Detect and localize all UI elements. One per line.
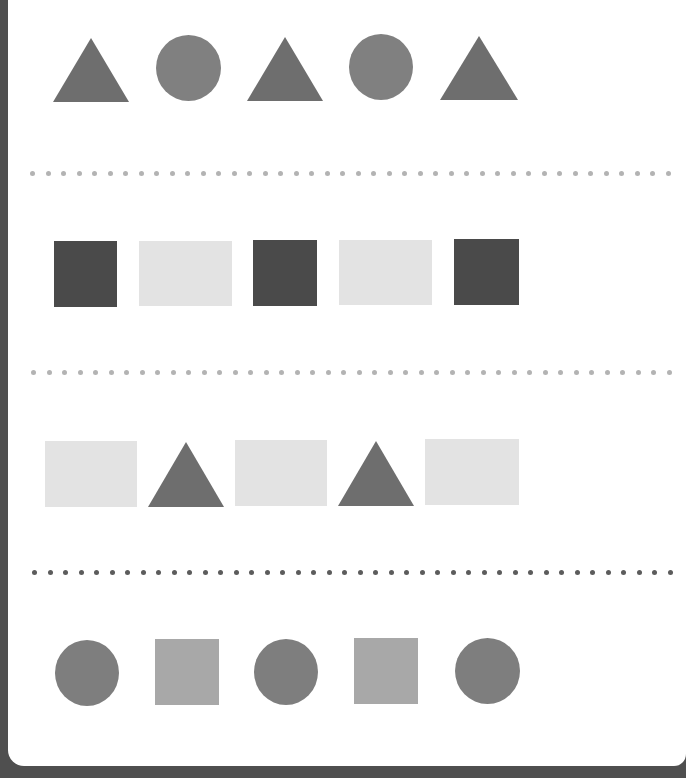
divider-dot — [185, 171, 190, 176]
divider-dot — [78, 370, 83, 375]
divider-dot — [61, 171, 66, 176]
divider-dot — [77, 171, 82, 176]
divider-dot — [573, 171, 578, 176]
divider-dot — [589, 370, 594, 375]
divider-dot — [403, 370, 408, 375]
divider-dot — [47, 370, 52, 375]
divider-dot — [668, 570, 673, 575]
circle-shape — [156, 35, 221, 101]
circle-shape — [254, 639, 318, 705]
divider-dot — [124, 370, 129, 375]
divider-dot — [218, 570, 223, 575]
divider-dot — [372, 370, 377, 375]
divider-dot — [48, 570, 53, 575]
divider-dot — [666, 171, 671, 176]
divider-dot — [154, 171, 159, 176]
divider-dot — [187, 570, 192, 575]
divider-dot — [451, 570, 456, 575]
divider-dot — [404, 570, 409, 575]
square-shape — [155, 639, 219, 705]
divider-dot — [30, 171, 35, 176]
divider-dot — [388, 370, 393, 375]
divider-dot — [234, 570, 239, 575]
divider-dot — [170, 171, 175, 176]
divider-dot — [279, 370, 284, 375]
dotted-divider-1 — [8, 171, 686, 177]
rectangle-shape — [425, 439, 519, 505]
worksheet-card — [8, 0, 686, 766]
divider-dot — [433, 171, 438, 176]
divider-dot — [358, 570, 363, 575]
divider-dot — [667, 370, 672, 375]
divider-dot — [418, 171, 423, 176]
divider-dot — [544, 570, 549, 575]
divider-dot — [513, 570, 518, 575]
divider-dot — [79, 570, 84, 575]
divider-dot — [464, 171, 469, 176]
divider-dot — [420, 570, 425, 575]
square-shape — [454, 239, 519, 305]
divider-dot — [247, 171, 252, 176]
divider-dot — [310, 370, 315, 375]
divider-dot — [92, 171, 97, 176]
divider-dot — [496, 370, 501, 375]
divider-dot — [342, 570, 347, 575]
divider-dot — [357, 370, 362, 375]
divider-dot — [311, 570, 316, 575]
divider-dot — [527, 370, 532, 375]
divider-dot — [371, 171, 376, 176]
divider-dot — [248, 370, 253, 375]
divider-dot — [419, 370, 424, 375]
divider-dot — [543, 370, 548, 375]
divider-dot — [481, 370, 486, 375]
square-shape — [253, 240, 317, 306]
divider-dot — [280, 570, 285, 575]
divider-dot — [62, 370, 67, 375]
divider-dot — [217, 370, 222, 375]
divider-dot — [233, 370, 238, 375]
divider-dot — [340, 171, 345, 176]
divider-dot — [32, 570, 37, 575]
divider-dot — [402, 171, 407, 176]
divider-dot — [63, 570, 68, 575]
divider-dot — [434, 370, 439, 375]
divider-dot — [636, 370, 641, 375]
divider-dot — [108, 171, 113, 176]
circle-shape — [455, 638, 520, 704]
divider-dot — [528, 570, 533, 575]
divider-dot — [512, 370, 517, 375]
divider-dot — [123, 171, 128, 176]
divider-dot — [495, 171, 500, 176]
divider-dot — [387, 171, 392, 176]
divider-dot — [94, 570, 99, 575]
divider-dot — [93, 370, 98, 375]
divider-dot — [278, 171, 283, 176]
divider-dot — [109, 370, 114, 375]
divider-dot — [557, 171, 562, 176]
divider-dot — [186, 370, 191, 375]
divider-dot — [139, 171, 144, 176]
divider-dot — [264, 370, 269, 375]
divider-dot — [465, 370, 470, 375]
divider-dot — [171, 370, 176, 375]
divider-dot — [156, 570, 161, 575]
divider-dot — [141, 570, 146, 575]
divider-dot — [265, 570, 270, 575]
divider-dot — [110, 570, 115, 575]
circle-shape — [349, 34, 413, 100]
divider-dot — [449, 171, 454, 176]
divider-dot — [637, 570, 642, 575]
divider-dot — [294, 171, 299, 176]
divider-dot — [652, 570, 657, 575]
divider-dot — [263, 171, 268, 176]
divider-dot — [140, 370, 145, 375]
divider-dot — [31, 370, 36, 375]
divider-dot — [373, 570, 378, 575]
divider-dot — [620, 370, 625, 375]
divider-dot — [621, 570, 626, 575]
circle-shape — [55, 640, 119, 706]
divider-dot — [542, 171, 547, 176]
divider-dot — [605, 370, 610, 375]
divider-dot — [172, 570, 177, 575]
divider-dot — [619, 171, 624, 176]
